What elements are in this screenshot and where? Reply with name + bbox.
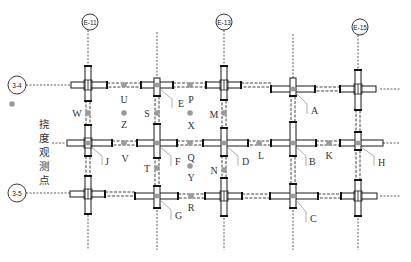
legend-char-1: 挠 bbox=[39, 118, 50, 130]
point-x bbox=[187, 110, 193, 116]
point-label-p: P bbox=[188, 94, 194, 105]
point-label-m: M bbox=[210, 109, 219, 120]
joint-label-e: E bbox=[178, 98, 184, 109]
axis-label: E-11 bbox=[83, 19, 97, 26]
joint-label-h: H bbox=[378, 157, 385, 168]
point-p bbox=[187, 82, 193, 88]
point-s bbox=[154, 110, 160, 116]
axis-bubble-e-11: E-11 bbox=[82, 14, 98, 30]
point-t bbox=[154, 165, 160, 171]
point-label-q: Q bbox=[187, 152, 195, 163]
point-z bbox=[121, 110, 127, 116]
point-k bbox=[326, 140, 332, 146]
point-label-s: S bbox=[144, 108, 150, 119]
legend-char-3: 观 bbox=[39, 146, 50, 158]
axis-bubble-e-15: E-15 bbox=[352, 19, 368, 35]
legend-char-5: 点 bbox=[39, 174, 49, 186]
joint-label-b: B bbox=[309, 156, 316, 167]
point-y bbox=[187, 163, 193, 169]
point-label-z: Z bbox=[121, 119, 127, 130]
axis-label: 3-4 bbox=[12, 82, 22, 89]
legend-char-4: 测 bbox=[39, 160, 49, 172]
point-label-w: W bbox=[72, 108, 82, 119]
joint-label-f: F bbox=[175, 156, 181, 167]
point-label-r: R bbox=[188, 202, 195, 213]
point-label-u: U bbox=[120, 94, 128, 105]
axis-bubble-3-4: 3-4 bbox=[8, 76, 26, 94]
point-label-t: T bbox=[144, 163, 150, 174]
point-label-l: L bbox=[258, 150, 264, 161]
legend: 挠 度 观 测 点 bbox=[9, 101, 50, 186]
joint-label-d: D bbox=[242, 156, 249, 167]
axis-bubble-e-13: E-13 bbox=[216, 14, 232, 30]
structural-grid-plan: E-11 E-13 E-15 3-4 3-5 E A J F D B H G bbox=[0, 0, 411, 262]
point-m bbox=[221, 110, 227, 116]
point-v bbox=[121, 140, 127, 146]
point-label-x: X bbox=[187, 120, 195, 131]
joint-label-c: C bbox=[310, 213, 317, 224]
point-u bbox=[121, 82, 127, 88]
joint-label-g: G bbox=[175, 210, 182, 221]
joint-label-j: J bbox=[105, 156, 109, 167]
legend-char-2: 度 bbox=[39, 132, 50, 144]
point-r bbox=[188, 193, 194, 199]
legend-marker bbox=[9, 101, 15, 107]
point-label-n: N bbox=[210, 165, 217, 176]
point-n bbox=[221, 167, 227, 173]
point-label-v: V bbox=[121, 153, 129, 164]
axis-label: E-15 bbox=[353, 24, 367, 31]
point-label-k: K bbox=[325, 150, 333, 161]
axis-bubble-3-5: 3-5 bbox=[8, 184, 26, 202]
point-q bbox=[187, 140, 193, 146]
axis-label: E-13 bbox=[217, 19, 231, 26]
point-l bbox=[256, 140, 262, 146]
point-label-y: Y bbox=[187, 172, 194, 183]
axis-label: 3-5 bbox=[12, 190, 22, 197]
point-w bbox=[85, 110, 91, 116]
joint-label-a: A bbox=[311, 105, 319, 116]
